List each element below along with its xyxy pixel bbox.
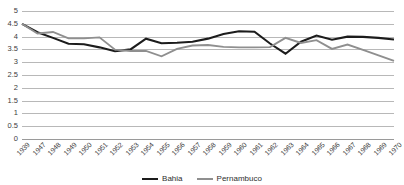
x-axis-tick-label: 1955 — [155, 141, 171, 157]
legend-item-bahia[interactable]: Bahia — [142, 175, 182, 183]
chart-legend: BahiaPernambuco — [0, 175, 404, 183]
x-axis-tick-label: 1960 — [232, 141, 248, 157]
legend-label: Pernambuco — [217, 175, 262, 183]
y-axis-tick-label: 3.5 — [8, 46, 18, 54]
x-axis-tick-label: 1947 — [31, 141, 47, 157]
y-axis-tick-label: 2.5 — [8, 71, 18, 79]
x-axis-tick-label: 1952 — [108, 141, 124, 157]
x-axis-tick-label: 1959 — [217, 141, 233, 157]
y-axis-tick-label: 3 — [14, 58, 18, 66]
legend-item-pernambuco[interactable]: Pernambuco — [197, 175, 262, 183]
x-axis-tick-label: 1958 — [201, 141, 217, 157]
line-chart: 00.511.522.533.544.55 193919471948194919… — [0, 0, 404, 185]
gridline — [22, 139, 394, 140]
legend-label: Bahia — [162, 175, 182, 183]
x-axis-tick-label: 1954 — [139, 141, 155, 157]
x-axis-tick-label: 1961 — [248, 141, 264, 157]
x-axis-tick-label: 1950 — [77, 141, 93, 157]
y-axis-tick-label: 0.5 — [8, 122, 18, 130]
x-axis-tick-label: 1962 — [263, 141, 279, 157]
y-axis-tick-label: 0 — [14, 135, 18, 143]
x-axis-tick-label: 1964 — [294, 141, 310, 157]
y-axis-tick-label: 1.5 — [8, 97, 18, 105]
x-axis-tick-label: 1969 — [372, 141, 388, 157]
x-axis-tick-label: 1951 — [93, 141, 109, 157]
x-axis-labels: 1939194719481949195019511952195319541955… — [22, 141, 394, 171]
x-axis-tick-label: 1963 — [279, 141, 295, 157]
x-axis-tick-label: 1968 — [356, 141, 372, 157]
x-axis-tick-label: 1956 — [170, 141, 186, 157]
y-axis-labels: 00.511.522.533.544.55 — [0, 11, 20, 139]
y-axis-tick-label: 5 — [14, 7, 18, 15]
x-axis-tick-label: 1967 — [341, 141, 357, 157]
x-axis-tick-label: 1966 — [325, 141, 341, 157]
x-axis-tick-label: 1970 — [387, 141, 403, 157]
y-axis-tick-label: 2 — [14, 84, 18, 92]
series-layer — [22, 11, 394, 139]
y-axis-tick-label: 1 — [14, 110, 18, 118]
y-axis-tick-label: 4 — [14, 33, 18, 41]
legend-swatch-icon — [142, 178, 158, 181]
x-axis-tick-label: 1957 — [186, 141, 202, 157]
x-axis-tick-label: 1965 — [310, 141, 326, 157]
x-axis-tick-label: 1953 — [124, 141, 140, 157]
x-axis-tick-label: 1939 — [15, 141, 31, 157]
y-axis-tick-label: 4.5 — [8, 20, 18, 28]
plot-area — [22, 11, 394, 139]
x-axis-tick-label: 1948 — [46, 141, 62, 157]
legend-swatch-icon — [197, 178, 213, 180]
x-axis-tick-label: 1949 — [62, 141, 78, 157]
series-line-pernambuco — [22, 24, 394, 61]
